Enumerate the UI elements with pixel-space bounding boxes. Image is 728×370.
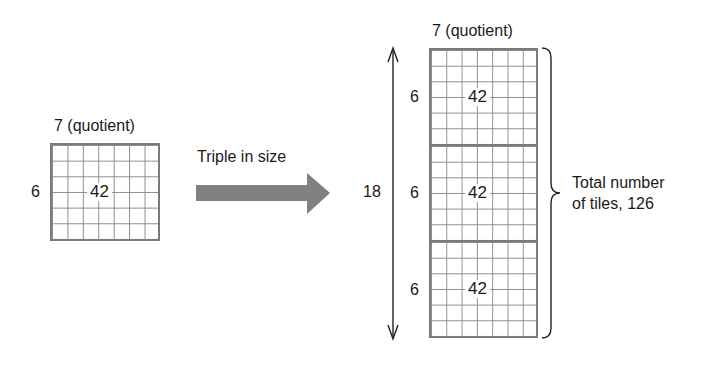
total-tiles-label-line1: Total number xyxy=(572,174,665,192)
block-1-product-value: 42 xyxy=(465,88,490,106)
block-2-side-label: 6 xyxy=(410,184,419,202)
block-1-side-label: 6 xyxy=(410,88,419,106)
triple-arrow-icon xyxy=(196,173,330,214)
right-quotient-label: 7 (quotient) xyxy=(432,22,513,40)
right-height-label: 18 xyxy=(363,183,381,201)
height-double-arrow-icon xyxy=(388,48,398,339)
right-tile-block-2: 42 xyxy=(429,144,538,242)
block-3-product-value: 42 xyxy=(465,280,490,298)
block-2-product-value: 42 xyxy=(465,184,490,202)
right-tile-block-3: 42 xyxy=(429,240,538,338)
right-tile-block-1: 42 xyxy=(429,48,538,146)
block-3-side-label: 6 xyxy=(410,281,419,299)
total-tiles-label-line2: of tiles, 126 xyxy=(572,195,654,213)
curly-brace-icon xyxy=(542,48,560,338)
